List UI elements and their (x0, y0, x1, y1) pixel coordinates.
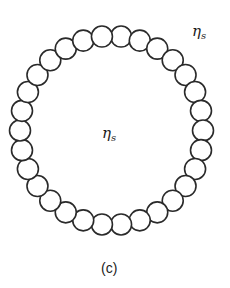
bead-circle (10, 120, 31, 141)
vesicle-diagram: ηs ηs (c) (0, 0, 230, 288)
bead-circle (129, 210, 150, 231)
bead-ring (0, 0, 230, 288)
outer-viscosity-label: ηs (192, 24, 206, 41)
bead-circle (17, 158, 38, 179)
inner-eta-symbol: η (102, 124, 111, 142)
bead-circle (73, 30, 94, 51)
inner-subscript: s (111, 132, 116, 143)
bead-circle (111, 26, 132, 47)
inner-viscosity-label: ηs (102, 126, 116, 143)
bead-circle (191, 100, 212, 121)
bead-circle (12, 140, 33, 161)
bead-circle (185, 82, 206, 103)
outer-eta-symbol: η (192, 22, 201, 40)
bead-circle (91, 214, 112, 235)
bead-circle (193, 120, 214, 141)
figure-caption: (c) (101, 260, 117, 276)
bead-circle (111, 214, 132, 235)
outer-subscript: s (201, 30, 206, 41)
bead-circle (191, 140, 212, 161)
bead-circle (91, 26, 112, 47)
bead-circle (12, 100, 33, 121)
